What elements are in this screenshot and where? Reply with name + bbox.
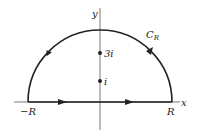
arc-label: CR — [146, 29, 160, 42]
right-endpoint-label: R — [166, 106, 175, 117]
contour-diagram: 3i i y x −R R CR — [0, 0, 200, 135]
y-axis-label: y — [91, 8, 98, 19]
point-i — [98, 79, 102, 83]
arrow-right-icon — [58, 99, 67, 105]
arrow-right-icon — [125, 99, 134, 105]
left-endpoint-label: −R — [20, 106, 36, 117]
x-axis-label: x — [181, 97, 187, 108]
point-3i-label: 3i — [104, 48, 114, 59]
point-i-label: i — [104, 76, 107, 87]
arc-label-sub: R — [153, 34, 160, 42]
point-3i — [98, 51, 102, 55]
